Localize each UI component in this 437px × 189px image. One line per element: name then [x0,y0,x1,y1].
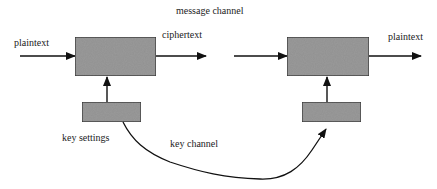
key-settings-box-left [82,102,141,122]
decryption-box [287,37,369,76]
ciphertext-label: ciphertext [162,30,202,40]
plaintext-output-label: plaintext [388,32,423,42]
cipher-system-diagram: message channel plaintext ciphertext pla… [0,0,437,189]
key-channel-label: key channel [170,139,218,149]
key-settings-box-right [302,102,361,122]
plaintext-input-label: plaintext [14,38,49,48]
key-channel-curve [123,122,326,179]
message-channel-label: message channel [176,6,243,16]
encryption-box [75,37,156,76]
diagram-canvas [0,0,437,189]
key-settings-label: key settings [62,133,110,143]
